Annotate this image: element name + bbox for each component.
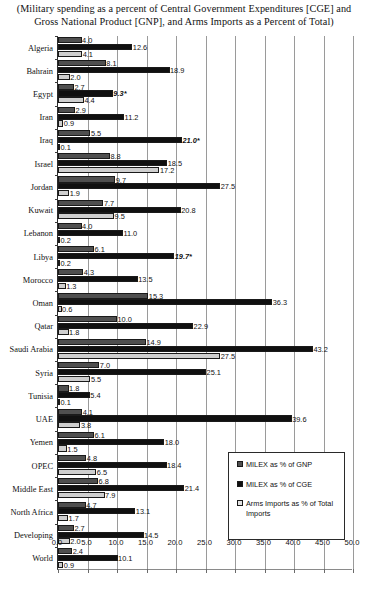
chart-row: World2.410.10.9: [58, 547, 352, 570]
bar-gnp: 15.3: [58, 293, 148, 299]
category-label: Bahrain: [26, 66, 53, 75]
bar-arms: 0.9: [58, 120, 63, 126]
category-label: Iran: [40, 113, 53, 122]
bar-value-label: 19.7*: [175, 252, 192, 261]
bar-gnp: 9.7: [58, 176, 115, 182]
bar-value-label: 1.5: [67, 444, 77, 453]
bar-value-label: 7.9: [105, 490, 115, 499]
category-label: Syria: [35, 368, 53, 377]
x-axis-tick-label: 20.0: [168, 538, 183, 547]
legend-label: MILEX as % of CGE: [246, 480, 338, 490]
chart-row: Morocco4.313.51.3: [58, 268, 352, 291]
bar-value-label: 5.5: [91, 374, 101, 383]
bar-arms: 3.8: [58, 422, 80, 428]
x-gridline: [353, 36, 354, 569]
bar-value-label: 27.5: [221, 351, 235, 360]
legend-swatch-cge: [237, 481, 243, 487]
chart-legend: MILEX as % of GNPMILEX as % of CGEArms I…: [228, 452, 345, 540]
bar-value-label: 5.4: [90, 391, 100, 400]
bar-arms: 6.5: [58, 469, 96, 475]
bar-cge: 21.0*: [58, 137, 182, 143]
bar-arms: 1.3: [58, 283, 66, 289]
bar-value-label: 11.2: [125, 112, 139, 121]
legend-label: Arms Imports as % of Total Imports: [246, 499, 338, 518]
bar-gnp: 2.7: [58, 525, 74, 531]
bar-arms: 4.1: [58, 51, 82, 57]
chart-row: Kuwait7.720.89.5: [58, 199, 352, 222]
x-axis-tick-label: 50.0: [345, 538, 360, 547]
chart-row: UAE4.139.63.8: [58, 407, 352, 430]
bar-value-label: 18.9: [170, 66, 184, 75]
bar-cge: 36.3: [58, 299, 272, 305]
category-label: Oman: [33, 298, 53, 307]
bar-value-label: 2.0: [70, 537, 80, 546]
bar-cge: 18.5: [58, 160, 167, 166]
bar-value-label: 0.9: [64, 560, 74, 569]
bar-value-label: 4.4: [84, 96, 94, 105]
chart-title: (Military spending as a percent of Centr…: [4, 2, 364, 28]
bar-value-label: 2.0: [70, 73, 80, 82]
bar-arms: 0.2: [58, 260, 60, 266]
bar-gnp: 5.5: [58, 130, 90, 136]
bar-cge: 43.2: [58, 346, 313, 352]
bar-arms: 0.2: [58, 237, 60, 243]
category-label: World: [32, 554, 53, 563]
chart-row: Syria7.025.15.5: [58, 361, 352, 384]
bar-arms: 5.5: [58, 376, 90, 382]
chart-row: Bahrain8.118.92.0: [58, 59, 352, 82]
category-label: UAE: [36, 415, 53, 424]
bar-arms: 1.8: [58, 329, 69, 335]
bar-value-label: 3.8: [81, 421, 91, 430]
category-label: Iraq: [40, 136, 53, 145]
bar-gnp: 2.4: [58, 548, 72, 554]
bar-gnp: 8.1: [58, 60, 106, 66]
legend-item-cge: MILEX as % of CGE: [237, 480, 338, 490]
bar-value-label: 17.2: [160, 165, 174, 174]
chart-row: Yemen6.118.01.5: [58, 431, 352, 454]
bar-cge: 12.6: [58, 44, 132, 50]
bar-gnp: 4.7: [58, 502, 86, 508]
x-axis-tick: [353, 569, 354, 573]
bar-gnp: 2.9: [58, 107, 75, 113]
bar-value-label: 43.2: [313, 344, 327, 353]
bar-value-label: 27.5: [221, 182, 235, 191]
category-label: Saudi Arabia: [10, 345, 54, 354]
chart-row: Algeria4.012.64.1: [58, 36, 352, 59]
bar-gnp: 4.3: [58, 269, 83, 275]
chart-row: Oman15.336.30.6: [58, 291, 352, 314]
bar-value-label: 21.0*: [182, 135, 199, 144]
bar-cge: 25.1: [58, 369, 206, 375]
bar-value-label: 18.0: [165, 437, 179, 446]
chart-row: Qatar10.022.91.8: [58, 315, 352, 338]
chart-row: Jordan9.727.51.9: [58, 175, 352, 198]
bar-value-label: 13.5: [138, 275, 152, 284]
bar-value-label: 0.2: [61, 258, 71, 267]
x-axis-tick-label: 10.0: [109, 538, 124, 547]
bar-arms: 1.9: [58, 190, 69, 196]
category-label: North Africa: [10, 507, 53, 516]
bar-arms: 9.5: [58, 213, 114, 219]
bar-arms: 0.9: [58, 562, 63, 568]
bar-arms: 17.2: [58, 167, 159, 173]
category-label: Morocco: [23, 275, 53, 284]
bar-arms: 0.6: [58, 306, 62, 312]
bar-gnp: 7.7: [58, 200, 103, 206]
bar-value-label: 9.5: [115, 212, 125, 221]
category-label: Middle East: [12, 484, 53, 493]
legend-item-gnp: MILEX as % of GNP: [237, 460, 338, 470]
x-axis-tick-label: 5.0: [81, 538, 92, 547]
bar-arms: 7.9: [58, 492, 105, 498]
bar-value-label: 11.0: [123, 228, 137, 237]
bar-arms: 0.1: [58, 399, 60, 405]
category-label: Jordan: [31, 182, 53, 191]
x-axis-tick-label: 0.0: [52, 538, 63, 547]
bar-value-label: 13.1: [136, 507, 150, 516]
bar-gnp: 10.0: [58, 316, 117, 322]
bar-gnp: 6.1: [58, 432, 94, 438]
bar-gnp: 4.0: [58, 223, 82, 229]
bar-gnp: 1.8: [58, 385, 69, 391]
category-label: Egypt: [33, 90, 53, 99]
chart-row: Tunisia1.85.40.1: [58, 384, 352, 407]
bar-value-label: 22.9: [194, 321, 208, 330]
bar-gnp: 14.9: [58, 339, 146, 345]
